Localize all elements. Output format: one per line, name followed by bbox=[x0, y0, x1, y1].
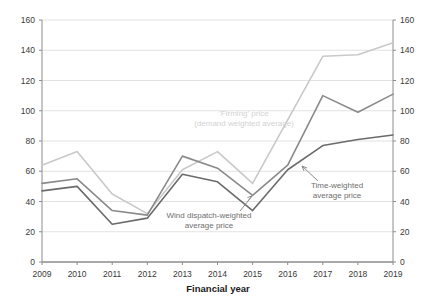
y-tick-label-right: 160 bbox=[400, 15, 414, 25]
y-tick-label-left: 60 bbox=[26, 166, 36, 176]
y-tick-label-right: 0 bbox=[400, 257, 405, 267]
y-axis-right: 020406080100120140160 bbox=[393, 15, 414, 267]
y-tick-label-right: 120 bbox=[400, 76, 414, 86]
y-tick-label-left: 100 bbox=[21, 106, 35, 116]
y-tick-label-left: 120 bbox=[21, 76, 35, 86]
x-tick-label: 2010 bbox=[68, 269, 87, 279]
y-tick-label-left: 40 bbox=[26, 197, 36, 207]
y-tick-label-left: 0 bbox=[30, 257, 35, 267]
svg-text:Wind dispatch-weighted: Wind dispatch-weighted bbox=[167, 211, 252, 220]
y-tick-label-left: 160 bbox=[21, 15, 35, 25]
y-tick-label-right: 60 bbox=[400, 166, 410, 176]
y-tick-label-right: 80 bbox=[400, 136, 410, 146]
x-tick-label: 2011 bbox=[103, 269, 122, 279]
x-tick-label: 2013 bbox=[173, 269, 192, 279]
x-tick-label: 2012 bbox=[138, 269, 157, 279]
price-trend-chart: 020406080100120140160 020406080100120140… bbox=[0, 0, 436, 301]
x-axis-title: Financial year bbox=[186, 283, 250, 294]
svg-text:(demand weighted average): (demand weighted average) bbox=[194, 119, 294, 128]
x-tick-label: 2014 bbox=[208, 269, 227, 279]
x-tick-label: 2017 bbox=[313, 269, 332, 279]
x-axis: 2009201020112012201320142015201620172018… bbox=[33, 262, 403, 279]
annotation-time-weighted: Time-weighted average price bbox=[311, 181, 363, 200]
y-axis-left: 020406080100120140160 bbox=[21, 15, 42, 267]
x-tick-label: 2018 bbox=[348, 269, 367, 279]
svg-text:'Firming' price: 'Firming' price bbox=[219, 109, 269, 118]
y-tick-label-left: 80 bbox=[26, 136, 36, 146]
x-tick-label: 2016 bbox=[278, 269, 297, 279]
svg-text:average price: average price bbox=[185, 221, 234, 230]
y-tick-label-right: 20 bbox=[400, 227, 410, 237]
y-tick-label-right: 100 bbox=[400, 106, 414, 116]
y-tick-label-right: 40 bbox=[400, 197, 410, 207]
chart-canvas: 020406080100120140160 020406080100120140… bbox=[0, 0, 436, 301]
annotation-wind-dispatch-weighted: Wind dispatch-weighted average price bbox=[167, 211, 252, 230]
y-tick-label-left: 140 bbox=[21, 45, 35, 55]
y-tick-label-left: 20 bbox=[26, 227, 36, 237]
x-tick-label: 2009 bbox=[33, 269, 52, 279]
x-tick-label: 2015 bbox=[243, 269, 262, 279]
x-tick-label: 2019 bbox=[384, 269, 403, 279]
annotation-firming-price: 'Firming' price (demand weighted average… bbox=[194, 109, 294, 128]
y-tick-label-right: 140 bbox=[400, 45, 414, 55]
svg-text:average price: average price bbox=[313, 191, 362, 200]
svg-text:Time-weighted: Time-weighted bbox=[311, 181, 363, 190]
